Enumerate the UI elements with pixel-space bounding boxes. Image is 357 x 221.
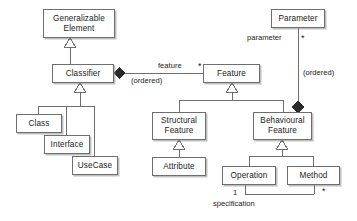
label-specification-source-multiplicity: 1	[233, 189, 237, 198]
uml-class-label: UseCase	[78, 161, 112, 171]
edge-operation-specification-method	[245, 185, 314, 194]
uml-class-operation[interactable]: Operation	[222, 166, 276, 185]
label-feature-ordered: (ordered)	[131, 77, 162, 86]
uml-class-classifier[interactable]: Classifier	[52, 64, 114, 83]
uml-class-label: Classifier	[66, 69, 101, 79]
label-feature-multiplicity: *	[198, 62, 202, 70]
uml-class-behavioural-feature[interactable]: Behavioural Feature	[253, 112, 312, 140]
uml-class-class[interactable]: Class	[16, 114, 62, 133]
uml-class-label: Behavioural Feature	[260, 116, 304, 135]
uml-class-label: Generalizable Element	[53, 14, 105, 33]
uml-class-method[interactable]: Method	[287, 166, 340, 185]
uml-class-feature[interactable]: Feature	[203, 64, 260, 83]
uml-class-label: Class	[29, 119, 50, 129]
uml-class-interface[interactable]: Interface	[44, 135, 90, 154]
label-parameter-role: parameter	[247, 34, 282, 43]
label-specification-target-multiplicity: *	[322, 187, 326, 195]
edge-classifier-to-generalizable-element	[65, 38, 76, 64]
uml-class-diagram: Generalizable Element Classifier Class I…	[0, 0, 357, 221]
uml-class-usecase[interactable]: UseCase	[72, 156, 118, 175]
uml-class-label: Structural Feature	[161, 116, 197, 135]
uml-class-label: Feature	[217, 69, 246, 79]
uml-class-label: Parameter	[278, 14, 317, 24]
uml-class-label: Attribute	[163, 162, 194, 172]
label-parameter-multiplicity: *	[301, 34, 305, 42]
uml-class-structural-feature[interactable]: Structural Feature	[152, 112, 206, 140]
edge-feature-subclasses	[179, 83, 283, 112]
label-specification-role: specification	[213, 200, 255, 209]
uml-class-label: Interface	[51, 140, 84, 150]
uml-class-label: Operation	[231, 171, 268, 181]
edge-behavioural-feature-subclasses	[249, 140, 313, 166]
uml-class-attribute[interactable]: Attribute	[152, 157, 206, 176]
uml-class-label: Method	[300, 171, 328, 181]
uml-class-generalizable-element[interactable]: Generalizable Element	[43, 9, 115, 38]
uml-class-parameter[interactable]: Parameter	[271, 9, 325, 28]
label-feature-role: feature	[158, 62, 182, 71]
label-parameter-ordered: (ordered)	[303, 69, 334, 78]
edge-attribute-to-structural-feature	[174, 140, 185, 157]
